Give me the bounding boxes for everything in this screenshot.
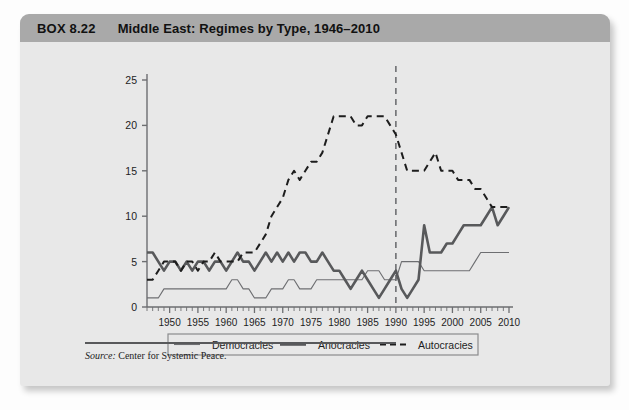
series-line-anocracies (147, 207, 509, 298)
legend-label-anocracies: Anocracies (318, 339, 370, 351)
x-tick-label: 1985 (356, 317, 379, 328)
y-tick-label: 10 (125, 210, 137, 222)
regimes-by-type-line-chart: 0510152025195019551960196519701975198019… (20, 42, 610, 386)
x-tick-label: 2000 (441, 317, 464, 328)
y-tick-label: 5 (131, 256, 137, 268)
x-tick-label: 1955 (187, 317, 210, 328)
x-tick-label: 1975 (300, 317, 323, 328)
series-line-autocracies (147, 116, 509, 279)
x-tick-label: 1950 (159, 317, 182, 328)
source-label: Source: (85, 350, 116, 361)
box-container: BOX 8.22 Middle East: Regimes by Type, 1… (20, 14, 610, 386)
source-text: Center for Systemic Peace. (116, 350, 227, 361)
chart-area: 0510152025195019551960196519701975198019… (20, 42, 610, 386)
x-tick-label: 1970 (272, 317, 295, 328)
x-tick-label: 1965 (243, 317, 266, 328)
box-number: BOX 8.22 (37, 21, 96, 36)
x-tick-label: 2005 (470, 317, 493, 328)
legend-label-democracies: Democracies (212, 339, 273, 351)
y-tick-label: 20 (125, 119, 137, 131)
x-tick-label: 1980 (328, 317, 351, 328)
x-tick-label: 1995 (413, 317, 436, 328)
x-tick-label: 1960 (215, 317, 238, 328)
source-note: Source: Center for Systemic Peace. (85, 350, 227, 361)
box-title: Middle East: Regimes by Type, 1946–2010 (118, 21, 380, 36)
legend-label-autocracies: Autocracies (418, 339, 473, 351)
y-tick-label: 0 (131, 301, 137, 313)
source-divider (85, 342, 396, 344)
y-tick-label: 25 (125, 74, 137, 86)
page-root: BOX 8.22 Middle East: Regimes by Type, 1… (0, 0, 629, 410)
y-tick-label: 15 (125, 165, 137, 177)
x-tick-label: 2010 (498, 317, 521, 328)
x-tick-label: 1990 (385, 317, 408, 328)
box-header: BOX 8.22 Middle East: Regimes by Type, 1… (20, 14, 610, 42)
